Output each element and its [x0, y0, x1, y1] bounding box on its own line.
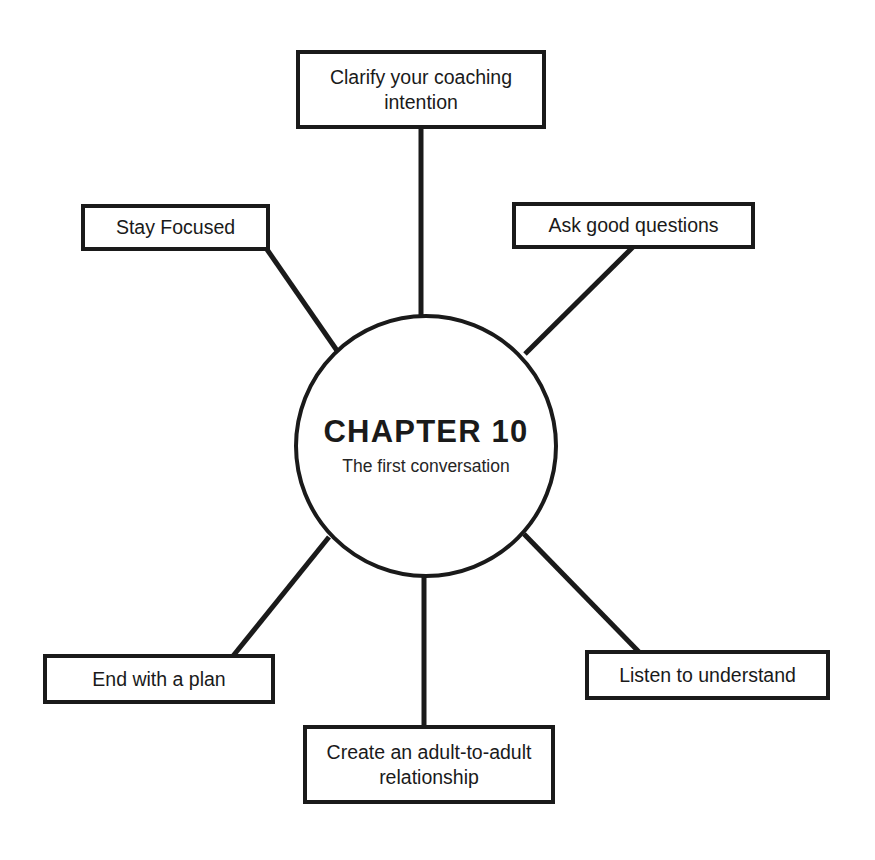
diagram-canvas: CHAPTER 10 The first conversation Clarif… [0, 0, 875, 860]
node-label: Listen to understand [619, 663, 796, 688]
hub-title: CHAPTER 10 [324, 415, 529, 449]
connector-ask-good [525, 247, 633, 354]
connector-stay-focused [266, 248, 338, 352]
node-listen-to-understand[interactable]: Listen to understand [585, 650, 830, 700]
node-ask-good-questions[interactable]: Ask good questions [512, 202, 755, 249]
node-label: Stay Focused [116, 215, 235, 240]
hub-subtitle: The first conversation [342, 456, 509, 477]
node-create-an-adult-to-adult-relationship[interactable]: Create an adult-to-adult relationship [303, 725, 555, 804]
node-label: Ask good questions [548, 213, 718, 238]
node-end-with-a-plan[interactable]: End with a plan [43, 654, 275, 704]
node-stay-focused[interactable]: Stay Focused [81, 204, 270, 251]
node-label: Clarify your coaching intention [330, 65, 512, 115]
node-clarify-your-coaching-intention[interactable]: Clarify your coaching intention [296, 50, 546, 129]
node-label: End with a plan [92, 667, 225, 692]
central-hub-circle: CHAPTER 10 The first conversation [294, 314, 558, 578]
connector-end-plan [233, 537, 329, 656]
connector-listen [524, 534, 639, 652]
node-label: Create an adult-to-adult relationship [327, 740, 532, 790]
